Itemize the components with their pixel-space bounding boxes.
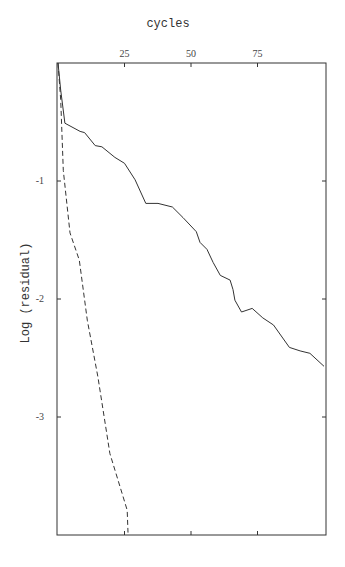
x-axis-ticks: 255075 — [120, 48, 263, 535]
plot-frame — [57, 63, 326, 535]
y-axis-label: Log (residual) — [19, 243, 33, 344]
data-series — [58, 63, 324, 533]
x-tick-label: 50 — [186, 48, 196, 59]
x-tick-label: 25 — [120, 48, 130, 59]
solid-line — [58, 63, 324, 366]
x-tick-label: 75 — [253, 48, 263, 59]
dashed-line — [58, 63, 128, 533]
y-tick-label: -3 — [36, 411, 44, 422]
y-axis-ticks: -1-2-3 — [36, 175, 326, 422]
residual-chart: cycles Log (residual) 255075 -1-2-3 — [0, 0, 345, 567]
y-tick-label: -1 — [36, 175, 44, 186]
y-tick-label: -2 — [36, 293, 44, 304]
chart-title: cycles — [146, 17, 189, 31]
